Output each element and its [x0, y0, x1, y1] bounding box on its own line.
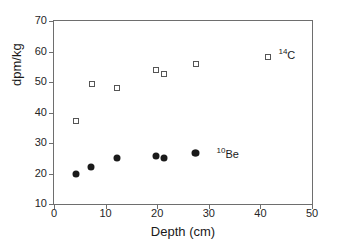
- y-axis-tick-label: 60: [35, 45, 47, 58]
- data-point-10Be: [153, 153, 160, 160]
- series-label-10Be: 10Be: [217, 147, 239, 160]
- x-axis-tick-label: 50: [306, 207, 318, 220]
- y-axis-tick-label: 20: [35, 167, 47, 180]
- data-point-14C: [161, 71, 167, 77]
- y-axis-tick-label: 70: [35, 14, 47, 27]
- y-axis-tick-label: 10: [35, 197, 47, 210]
- data-point-10Be: [88, 164, 95, 171]
- x-axis-title: Depth (cm): [53, 224, 313, 239]
- plot-area: 102030405060700102030405014C10Be: [53, 20, 313, 205]
- data-point-14C: [193, 61, 199, 67]
- data-point-10Be: [161, 154, 168, 161]
- series-label-14C: 14C: [278, 48, 295, 61]
- y-axis-tick-label: 50: [35, 75, 47, 88]
- y-axis-title: dpm/kg: [9, 43, 24, 86]
- y-axis-tick-label: 30: [35, 136, 47, 149]
- data-point-14C: [114, 85, 120, 91]
- y-axis-tick: [49, 113, 54, 114]
- y-axis-tick: [49, 21, 54, 22]
- data-point-10Be: [113, 155, 120, 162]
- x-axis-tick-label: 30: [203, 207, 215, 220]
- data-point-10Be: [72, 170, 79, 177]
- series-label-superscript: 14: [278, 46, 287, 55]
- series-label-superscript: 10: [217, 146, 226, 155]
- y-axis-tick: [49, 82, 54, 83]
- y-axis-tick: [49, 52, 54, 53]
- x-axis-tick-label: 20: [151, 207, 163, 220]
- data-point-14C: [73, 118, 79, 124]
- x-axis-tick-label: 0: [51, 207, 57, 220]
- data-point-14C: [153, 67, 159, 73]
- x-axis-tick-label: 10: [99, 207, 111, 220]
- y-axis-tick: [49, 143, 54, 144]
- y-axis-tick-label: 40: [35, 106, 47, 119]
- scatter-chart-figure: 102030405060700102030405014C10Be Depth (…: [0, 0, 339, 249]
- data-point-14C: [89, 81, 95, 87]
- data-point-14C: [265, 54, 271, 60]
- y-axis-tick: [49, 174, 54, 175]
- x-axis-tick-label: 40: [254, 207, 266, 220]
- legend-marker-10Be: [193, 150, 200, 157]
